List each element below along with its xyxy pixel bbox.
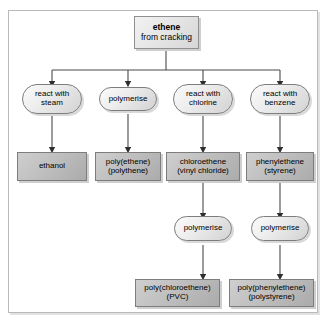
node-product-chloroethene[interactable]: chloroethene (vinyl chloride) (166, 152, 240, 181)
node-product-polystyrene[interactable]: poly(phenylethene) (polystyrene) (229, 279, 314, 307)
node-line2: (styrene) (264, 167, 296, 176)
node-line2: (polystyrene) (248, 293, 294, 302)
node-line2: (PVC) (167, 293, 189, 302)
node-line1: polymerise (261, 224, 300, 233)
node-subtitle: from cracking (141, 33, 192, 43)
node-line2: benzene (265, 99, 296, 108)
node-line2: steam (41, 99, 63, 108)
node-line2: chlorine (189, 99, 217, 108)
node-process-polymerise-2[interactable]: polymerise (174, 216, 232, 241)
node-product-ethanol[interactable]: ethanol (17, 152, 87, 181)
node-product-phenylethene[interactable]: phenylethene (styrene) (246, 152, 314, 181)
node-process-polymerise-3[interactable]: polymerise (251, 216, 309, 241)
node-ethene-start[interactable]: ethene from cracking (134, 16, 199, 49)
flowchart-diagram: ethene from cracking react with steam po… (0, 0, 332, 327)
node-line1: polymerise (184, 224, 223, 233)
node-product-pvc[interactable]: poly(chloroethene) (PVC) (135, 279, 220, 307)
node-process-react-with-steam[interactable]: react with steam (22, 84, 82, 114)
node-process-polymerise-1[interactable]: polymerise (99, 87, 157, 111)
node-product-polyethene[interactable]: poly(ethene) (polythene) (95, 152, 161, 181)
node-process-react-with-benzene[interactable]: react with benzene (250, 84, 310, 114)
node-line2: (vinyl chloride) (177, 167, 229, 176)
node-line1: ethanol (39, 162, 65, 171)
node-process-react-with-chlorine[interactable]: react with chlorine (173, 84, 233, 114)
node-line2: (polythene) (108, 167, 148, 176)
node-line1: polymerise (109, 95, 148, 104)
